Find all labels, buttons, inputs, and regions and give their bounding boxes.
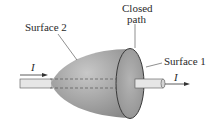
current-in-label: I xyxy=(31,62,35,73)
current-out-label: I xyxy=(174,72,178,83)
wire-right xyxy=(135,79,165,88)
surface-2-label: Surface 2 xyxy=(25,22,67,33)
surface2-leader xyxy=(58,34,77,60)
current-in-arrow xyxy=(20,73,48,77)
surface-1-label: Surface 1 xyxy=(164,56,206,67)
surface1-leader xyxy=(146,63,162,67)
wire-left xyxy=(20,79,52,88)
closed-path-label-line2: path xyxy=(127,14,146,25)
